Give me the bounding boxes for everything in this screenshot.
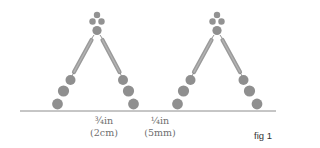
right-bugle-bead xyxy=(223,40,241,72)
right-bugle-bead xyxy=(103,40,120,72)
figure-caption: fig 1 xyxy=(254,130,272,141)
cluster-right-bead xyxy=(218,18,225,25)
left-leg-bead-2 xyxy=(58,85,69,96)
right-leg-bead-2 xyxy=(244,85,255,96)
right-leg-bead-3 xyxy=(128,99,139,110)
left-leg-bead-3 xyxy=(52,99,63,110)
measurement-imperial: ¾in xyxy=(82,115,126,127)
thread xyxy=(100,35,102,38)
measurement-metric: (2cm) xyxy=(82,127,126,139)
left-leg-bead-3 xyxy=(172,99,183,110)
left-leg-bead-1 xyxy=(66,75,76,85)
cluster-gap xyxy=(216,19,218,25)
cluster-top-bead xyxy=(94,12,100,18)
measurement-label-spacing-large: ¾in (2cm) xyxy=(82,115,126,139)
right-leg-bead-2 xyxy=(123,85,134,96)
measurement-label-spacing-small: ¼in (5mm) xyxy=(138,115,182,139)
top-bead-cluster xyxy=(209,12,224,35)
cluster-top-bead xyxy=(214,12,220,18)
cluster-bottom-bead xyxy=(92,26,101,35)
right-leg-bead-1 xyxy=(239,75,249,85)
left-motif xyxy=(52,12,139,110)
cluster-left-bead xyxy=(89,18,96,25)
right-motif xyxy=(172,12,262,110)
cluster-bottom-bead xyxy=(212,26,221,35)
right-leg-bead-3 xyxy=(252,99,263,110)
cluster-gap xyxy=(96,19,98,25)
top-bead-cluster xyxy=(89,12,104,35)
left-bugle-bead xyxy=(74,40,92,72)
left-leg-bead-1 xyxy=(186,75,196,85)
thread xyxy=(212,35,214,38)
left-bugle-bead xyxy=(194,40,212,72)
left-leg-bead-2 xyxy=(178,85,189,96)
thread xyxy=(220,35,222,38)
right-leg-bead-1 xyxy=(118,75,128,85)
measurement-metric: (5mm) xyxy=(138,127,182,139)
measurement-imperial: ¼in xyxy=(138,115,182,127)
cluster-right-bead xyxy=(98,18,105,25)
thread xyxy=(92,35,94,38)
cluster-left-bead xyxy=(209,18,216,25)
